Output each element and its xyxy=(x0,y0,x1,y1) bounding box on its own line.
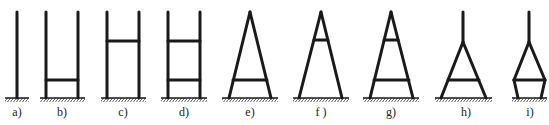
left-leg xyxy=(441,42,463,98)
left-leg xyxy=(229,12,250,98)
upper-left-strut xyxy=(514,42,529,80)
frame-configurations-figure: a) b) c) d) e) xyxy=(0,0,549,125)
panel-label: f ) xyxy=(316,105,327,119)
right-leg xyxy=(463,42,486,98)
panel-b: b) xyxy=(40,12,85,119)
panel-label: i) xyxy=(526,105,533,119)
lower-left-leg xyxy=(514,80,518,98)
left-leg xyxy=(299,12,321,98)
panel-g: g) xyxy=(363,12,419,119)
right-leg xyxy=(391,12,413,98)
panel-i: i) xyxy=(512,12,547,119)
panel-a: a) xyxy=(5,12,29,119)
panel-label: h) xyxy=(461,105,471,119)
right-leg xyxy=(321,12,342,98)
lower-right-leg xyxy=(541,80,545,98)
left-leg xyxy=(370,12,391,98)
panel-label: e) xyxy=(245,105,254,119)
panel-f: f ) xyxy=(293,12,349,119)
panel-d: d) xyxy=(161,12,207,119)
upper-right-strut xyxy=(529,42,545,80)
panel-e: e) xyxy=(222,12,278,119)
panel-label: b) xyxy=(57,105,67,119)
panel-h: h) xyxy=(435,12,492,119)
panel-c: c) xyxy=(101,12,146,119)
panel-label: c) xyxy=(118,105,127,119)
panel-label: g) xyxy=(386,105,396,119)
right-leg xyxy=(250,12,271,98)
panel-label: a) xyxy=(12,105,21,119)
panel-label: d) xyxy=(179,105,189,119)
